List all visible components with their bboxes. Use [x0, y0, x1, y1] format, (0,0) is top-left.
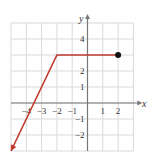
- y-axis-arrow-icon: [85, 14, 90, 19]
- grid: [11, 23, 133, 151]
- piecewise-curve: [11, 52, 121, 151]
- y-tick-label: 4: [80, 34, 85, 44]
- x-tick-label: −3: [37, 106, 47, 116]
- x-axis-label: x: [141, 98, 147, 109]
- x-tick-label: −2: [52, 106, 62, 116]
- y-tick-label: −1: [75, 114, 85, 124]
- y-tick-label: 1: [80, 82, 85, 92]
- graph: −4−3−2−112421−1−2 x y: [0, 0, 149, 164]
- y-tick-label: 2: [80, 66, 85, 76]
- closed-endpoint-dot: [115, 52, 121, 58]
- y-axis-label: y: [78, 13, 84, 24]
- x-tick-label: 2: [116, 106, 121, 116]
- y-tick-label: −2: [75, 130, 85, 140]
- x-tick-label: 1: [101, 106, 106, 116]
